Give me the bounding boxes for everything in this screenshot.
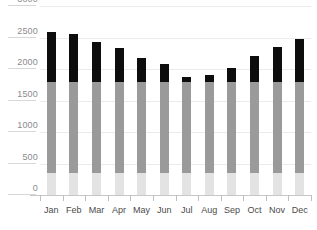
bar-dec[interactable] — [295, 0, 304, 195]
y-tick-label-2500: 2500 — [4, 27, 38, 36]
bar-segment-middle-feb — [69, 82, 78, 173]
x-tick-12 — [311, 195, 312, 201]
y-tick-rule-1500 — [8, 100, 36, 101]
bar-segment-base-jun — [160, 173, 169, 195]
bars-layer — [40, 0, 311, 195]
bar-jun[interactable] — [160, 0, 169, 195]
bar-segment-base-jul — [182, 173, 191, 195]
bar-segment-top-jan — [47, 32, 56, 82]
y-tick-rule-2000 — [8, 68, 36, 69]
bar-nov[interactable] — [273, 0, 282, 195]
bar-segment-base-oct — [250, 173, 259, 195]
bar-segment-top-jun — [160, 64, 169, 82]
bar-segment-base-may — [137, 173, 146, 195]
x-tick-label-nov: Nov — [262, 205, 292, 215]
bar-segment-base-apr — [115, 173, 124, 195]
bar-segment-base-nov — [273, 173, 282, 195]
bar-segment-middle-mar — [92, 82, 101, 173]
bar-segment-middle-jul — [182, 82, 191, 173]
bar-segment-middle-jun — [160, 82, 169, 173]
bar-jan[interactable] — [47, 0, 56, 195]
bar-feb[interactable] — [69, 0, 78, 195]
bar-segment-top-dec — [295, 39, 304, 82]
x-tick-label-aug: Aug — [194, 205, 224, 215]
bar-segment-top-mar — [92, 42, 101, 82]
y-tick-label-0: 0 — [4, 184, 38, 193]
x-tick-label-oct: Oct — [240, 205, 270, 215]
bar-segment-top-aug — [205, 75, 214, 82]
bar-aug[interactable] — [205, 0, 214, 195]
bar-segment-middle-nov — [273, 82, 282, 173]
y-tick-label-3000: 3000 — [4, 0, 38, 4]
bar-apr[interactable] — [115, 0, 124, 195]
bar-segment-middle-may — [137, 82, 146, 173]
x-tick-label-dec: Dec — [285, 205, 315, 215]
y-axis-labels: 050010001500200025003000 — [0, 0, 38, 200]
bar-segment-middle-apr — [115, 82, 124, 173]
y-tick-label-500: 500 — [4, 153, 38, 162]
x-tick-label-sep: Sep — [217, 205, 247, 215]
y-tick-rule-3000 — [8, 5, 36, 6]
bar-segment-top-feb — [69, 34, 78, 82]
x-tick-label-may: May — [127, 205, 157, 215]
bar-segment-top-nov — [273, 47, 282, 82]
bar-segment-top-oct — [250, 56, 259, 82]
bar-segment-base-dec — [295, 173, 304, 195]
bar-segment-base-feb — [69, 173, 78, 195]
bar-segment-middle-aug — [205, 82, 214, 173]
x-axis-baseline — [30, 195, 311, 196]
bar-oct[interactable] — [250, 0, 259, 195]
bar-segment-top-may — [137, 58, 146, 83]
bar-segment-middle-oct — [250, 82, 259, 173]
x-tick-label-feb: Feb — [59, 205, 89, 215]
x-tick-label-apr: Apr — [104, 205, 134, 215]
y-tick-label-2000: 2000 — [4, 58, 38, 67]
bar-chart: 050010001500200025003000 JanFebMarAprMay… — [0, 0, 317, 230]
bar-sep[interactable] — [227, 0, 236, 195]
x-tick-label-mar: Mar — [81, 205, 111, 215]
bar-segment-top-jul — [182, 77, 191, 82]
bar-may[interactable] — [137, 0, 146, 195]
y-tick-rule-1000 — [8, 131, 36, 132]
bar-segment-base-sep — [227, 173, 236, 195]
bar-segment-middle-sep — [227, 82, 236, 173]
bar-mar[interactable] — [92, 0, 101, 195]
bar-jul[interactable] — [182, 0, 191, 195]
y-tick-rule-500 — [8, 163, 36, 164]
bar-segment-middle-jan — [47, 82, 56, 173]
bar-segment-top-sep — [227, 68, 236, 82]
x-tick-label-jun: Jun — [149, 205, 179, 215]
bar-segment-top-apr — [115, 48, 124, 82]
bar-segment-base-jan — [47, 173, 56, 195]
y-tick-label-1500: 1500 — [4, 90, 38, 99]
x-tick-label-jul: Jul — [172, 205, 202, 215]
bar-segment-middle-dec — [295, 82, 304, 173]
y-tick-label-1000: 1000 — [4, 121, 38, 130]
bar-segment-base-mar — [92, 173, 101, 195]
x-tick-label-jan: Jan — [36, 205, 66, 215]
y-tick-rule-2500 — [8, 37, 36, 38]
bar-segment-base-aug — [205, 173, 214, 195]
